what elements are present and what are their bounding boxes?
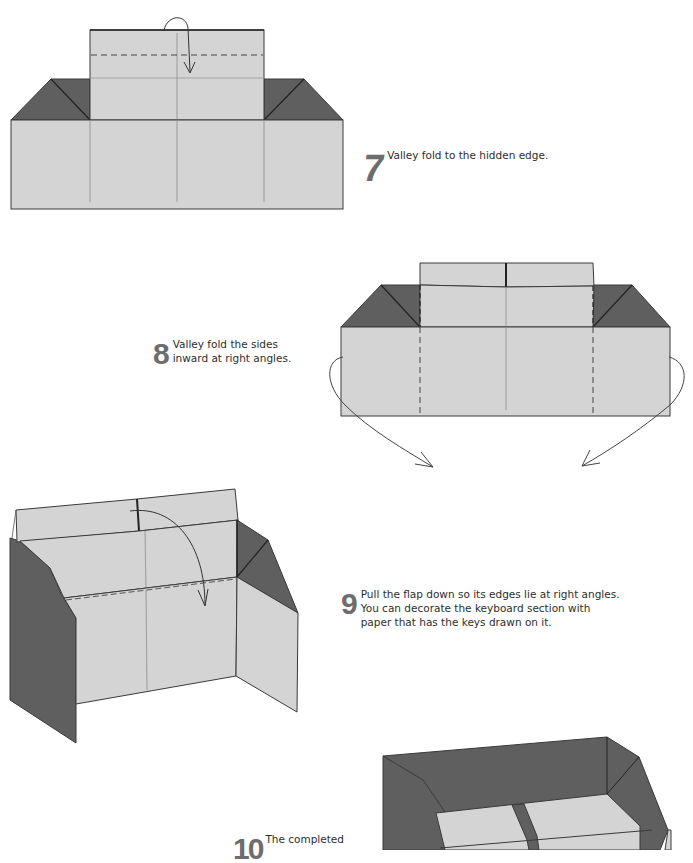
step9-front-panel xyxy=(64,577,237,704)
step-instruction: The completed xyxy=(265,832,385,846)
step-10: 10 The completed xyxy=(233,832,385,863)
step10-model xyxy=(383,737,671,850)
step8-model xyxy=(341,263,670,416)
step-instruction: Valley fold the sides inward at right an… xyxy=(173,337,293,365)
step8-left-flap xyxy=(341,285,420,327)
step-instruction: Pull the flap down so its edges lie at r… xyxy=(361,587,621,629)
step-instruction: Valley fold to the hidden edge. xyxy=(387,148,548,162)
step7-right-flap xyxy=(264,79,343,120)
step-number: 9 xyxy=(341,589,358,619)
step-number: 10 xyxy=(233,834,262,863)
step-7: 7 Valley fold to the hidden edge. xyxy=(363,148,548,187)
step8-base-panel xyxy=(341,327,670,416)
step8-right-flap xyxy=(593,285,670,327)
step-9: 9 Pull the flap down so its edges lie at… xyxy=(341,587,621,629)
step8-middle-panel xyxy=(420,285,594,327)
step-number: 7 xyxy=(360,149,386,187)
step-number: 8 xyxy=(153,339,170,369)
step7-left-flap xyxy=(11,79,90,120)
step7-model xyxy=(11,30,343,209)
step9-model xyxy=(10,489,298,743)
step-8: 8 Valley fold the sides inward at right … xyxy=(153,337,293,369)
